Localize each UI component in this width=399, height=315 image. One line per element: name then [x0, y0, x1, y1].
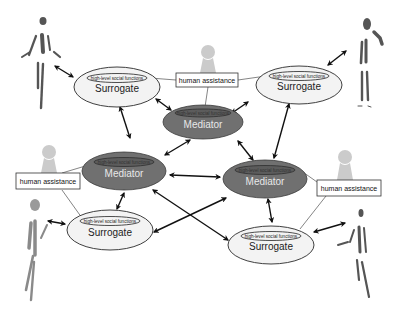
mediator-right: high-level social functions Mediator [223, 160, 307, 198]
social-functions-label: high-level social functions [91, 76, 144, 81]
social-functions-label: high-level social functions [177, 111, 230, 116]
human-assistance-right: human assistance [317, 180, 381, 196]
surrogate-label: Surrogate [249, 241, 293, 252]
human-assistance-top: human assistance [176, 73, 238, 87]
operator-silhouette-icon [200, 45, 216, 73]
mediator-label: Mediator [246, 176, 286, 187]
social-functions-label: high-level social functions [98, 160, 151, 165]
surrogate-top-left: high-level social functions Surrogate [74, 67, 160, 107]
surrogate-label: Surrogate [95, 83, 139, 94]
operator-silhouette-icon [337, 150, 353, 180]
social-functions-label: high-level social functions [273, 74, 326, 79]
social-functions-label: high-level social functions [245, 234, 298, 239]
surrogate-label: Surrogate [277, 81, 321, 92]
surrogate-top-right: high-level social functions Surrogate [256, 66, 342, 104]
mediator-left: high-level social functions Mediator [82, 152, 166, 190]
social-functions-label: high-level social functions [84, 219, 137, 224]
person-figure-icon [358, 18, 382, 107]
mediator-label: Mediator [105, 168, 145, 179]
human-assistance-label: human assistance [20, 178, 77, 185]
mediator-label: Mediator [184, 119, 224, 130]
social-functions-label: high-level social functions [239, 168, 292, 173]
human-assistance-label: human assistance [321, 185, 378, 192]
operator-silhouette-icon [41, 145, 57, 173]
human-assistance-left: human assistance [16, 173, 80, 189]
surrogate-label: Surrogate [88, 227, 132, 238]
surrogate-bottom-left: high-level social functions Surrogate [67, 210, 153, 250]
person-figure-icon [26, 199, 47, 300]
surrogate-bottom-right: high-level social functions Surrogate [228, 226, 314, 264]
diagram-canvas: high-level social functions Surrogate hi… [0, 0, 399, 315]
mediator-top: high-level social functions Mediator [163, 105, 243, 139]
person-figure-icon [22, 17, 60, 108]
person-figure-icon [338, 209, 369, 297]
human-assistance-label: human assistance [179, 77, 236, 84]
